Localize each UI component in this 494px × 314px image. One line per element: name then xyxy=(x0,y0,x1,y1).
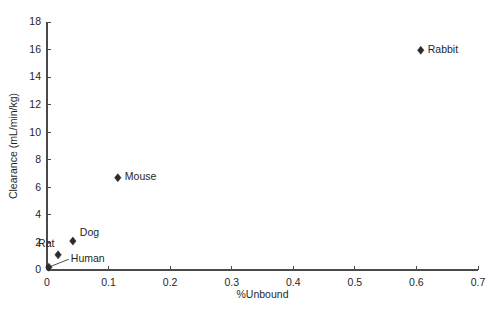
x-tick-group: 00.10.20.30.40.50.60.7 xyxy=(44,266,485,288)
x-tick-label: 0.3 xyxy=(224,276,239,288)
y-tick-label: 12 xyxy=(29,98,41,110)
x-tick-label: 0.2 xyxy=(163,276,178,288)
data-point-label: Mouse xyxy=(125,170,157,182)
scatter-chart: 024681012141618 Clearance (mL/min/kg) 00… xyxy=(0,0,494,314)
x-axis: 00.10.20.30.40.50.60.7 %Unbound xyxy=(44,266,485,300)
data-point-label: Rabbit xyxy=(428,43,458,55)
y-tick-label: 14 xyxy=(29,70,41,82)
x-tick-label: 0 xyxy=(44,276,50,288)
y-tick-label: 6 xyxy=(35,181,41,193)
y-tick-label: 4 xyxy=(35,208,41,220)
y-axis-title: Clearance (mL/min/kg) xyxy=(7,93,19,199)
data-point-label: Dog xyxy=(80,226,99,238)
x-tick-label: 0.1 xyxy=(101,276,116,288)
y-tick-label: 0 xyxy=(35,263,41,275)
data-point-label: Rat xyxy=(38,237,54,249)
x-tick-label: 0.5 xyxy=(348,276,363,288)
x-tick-label: 0.6 xyxy=(409,276,424,288)
point-leader-line xyxy=(50,259,69,267)
x-tick-label: 0.7 xyxy=(471,276,486,288)
data-point-marker xyxy=(55,251,61,259)
x-axis-title: %Unbound xyxy=(237,288,289,300)
data-point-marker xyxy=(418,46,424,54)
x-tick-label: 0.4 xyxy=(286,276,301,288)
data-point-label: Human xyxy=(71,252,105,264)
data-point-group: HumanRatDogMouseRabbit xyxy=(38,43,458,271)
y-tick-label: 16 xyxy=(29,43,41,55)
chart-canvas: 024681012141618 Clearance (mL/min/kg) 00… xyxy=(0,0,494,314)
data-point-marker xyxy=(70,237,76,245)
y-tick-label: 10 xyxy=(29,126,41,138)
y-tick-label: 18 xyxy=(29,15,41,27)
y-tick-label: 8 xyxy=(35,153,41,165)
data-point-marker xyxy=(115,174,121,182)
